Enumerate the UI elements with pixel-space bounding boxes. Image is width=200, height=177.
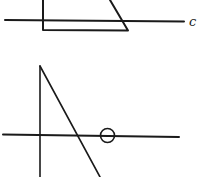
horizontal-line	[3, 135, 179, 138]
diagonal-side	[40, 66, 100, 177]
top-figure: c	[5, 0, 197, 31]
bottom-figure	[3, 66, 179, 177]
diagram-canvas: c	[0, 0, 200, 177]
trapezoid	[43, 0, 128, 31]
line-c	[5, 20, 184, 22]
line-c-label: c	[189, 14, 197, 29]
